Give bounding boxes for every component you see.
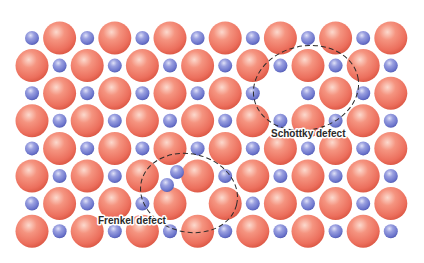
large-ion xyxy=(292,215,325,248)
small-ion xyxy=(135,31,149,45)
large-ion xyxy=(181,49,214,82)
small-ion xyxy=(80,86,94,100)
small-ion xyxy=(53,114,67,128)
frenkel-defect-label: Frenkel defect xyxy=(98,215,166,226)
small-ion xyxy=(356,31,370,45)
small-ion xyxy=(273,224,287,238)
large-ion xyxy=(374,22,407,55)
large-ion xyxy=(16,104,49,137)
small-ion xyxy=(301,86,315,100)
small-ion xyxy=(53,169,67,183)
large-ion xyxy=(236,160,269,193)
large-ion xyxy=(16,160,49,193)
small-ion xyxy=(80,141,94,155)
large-ion xyxy=(374,132,407,165)
small-ion xyxy=(356,141,370,155)
large-ion xyxy=(126,160,159,193)
small-ion xyxy=(273,169,287,183)
small-ion xyxy=(384,59,398,73)
small-ion xyxy=(135,141,149,155)
small-ion xyxy=(163,114,177,128)
large-ion xyxy=(43,22,76,55)
large-ion xyxy=(126,49,159,82)
small-ion xyxy=(384,114,398,128)
small-ion xyxy=(80,31,94,45)
small-ion xyxy=(218,59,232,73)
large-ion xyxy=(209,77,242,110)
large-ion xyxy=(98,132,131,165)
large-ion xyxy=(319,187,352,220)
small-ion xyxy=(80,197,94,211)
large-ion xyxy=(292,160,325,193)
crystal-defect-diagram: Schottky defect Frenkel defect xyxy=(0,0,424,263)
small-ion xyxy=(384,224,398,238)
large-ion xyxy=(154,22,187,55)
large-ion xyxy=(181,215,214,248)
small-ion xyxy=(160,178,174,192)
small-ion xyxy=(329,224,343,238)
large-ion xyxy=(181,160,214,193)
small-ion xyxy=(191,86,205,100)
small-ion xyxy=(25,86,39,100)
interstitial-small-ion xyxy=(170,165,184,179)
small-ion xyxy=(301,197,315,211)
large-ion xyxy=(374,77,407,110)
large-ion xyxy=(347,104,380,137)
large-ion xyxy=(347,160,380,193)
small-ion xyxy=(329,169,343,183)
small-ion xyxy=(163,59,177,73)
large-ion xyxy=(43,187,76,220)
small-ion xyxy=(273,59,287,73)
small-ion xyxy=(191,141,205,155)
large-ion xyxy=(126,104,159,137)
large-ion xyxy=(347,49,380,82)
small-ion xyxy=(53,224,67,238)
small-ion xyxy=(108,224,122,238)
large-ion xyxy=(181,104,214,137)
large-ion xyxy=(264,22,297,55)
small-ion xyxy=(191,31,205,45)
small-ion xyxy=(108,114,122,128)
large-ion xyxy=(16,49,49,82)
large-ion xyxy=(209,22,242,55)
large-ion xyxy=(264,187,297,220)
small-ion xyxy=(108,169,122,183)
large-ion xyxy=(43,132,76,165)
small-ion xyxy=(108,59,122,73)
small-ion xyxy=(301,31,315,45)
large-ion xyxy=(319,77,352,110)
schottky-defect-label: Schottky defect xyxy=(271,128,346,139)
large-ion xyxy=(98,77,131,110)
large-ion xyxy=(209,132,242,165)
large-ion xyxy=(71,49,104,82)
small-ion xyxy=(246,197,260,211)
large-ion xyxy=(154,132,187,165)
small-ion xyxy=(135,86,149,100)
small-ion xyxy=(384,169,398,183)
small-ion xyxy=(329,59,343,73)
small-ion xyxy=(25,141,39,155)
large-ion xyxy=(71,104,104,137)
large-ion xyxy=(16,215,49,248)
small-ion xyxy=(218,169,232,183)
small-ion xyxy=(301,141,315,155)
large-ion xyxy=(319,22,352,55)
small-ion xyxy=(25,31,39,45)
small-ion xyxy=(273,114,287,128)
small-ion xyxy=(53,59,67,73)
large-ion xyxy=(43,77,76,110)
small-ion xyxy=(246,86,260,100)
large-ion xyxy=(236,215,269,248)
large-ion xyxy=(347,215,380,248)
large-ion xyxy=(236,104,269,137)
small-ion xyxy=(163,224,177,238)
large-ion xyxy=(374,187,407,220)
small-ion xyxy=(356,197,370,211)
small-ion xyxy=(25,197,39,211)
large-ion xyxy=(98,22,131,55)
large-ion xyxy=(154,77,187,110)
large-ion xyxy=(292,49,325,82)
large-ion xyxy=(71,160,104,193)
small-ion xyxy=(246,141,260,155)
small-ion xyxy=(218,114,232,128)
